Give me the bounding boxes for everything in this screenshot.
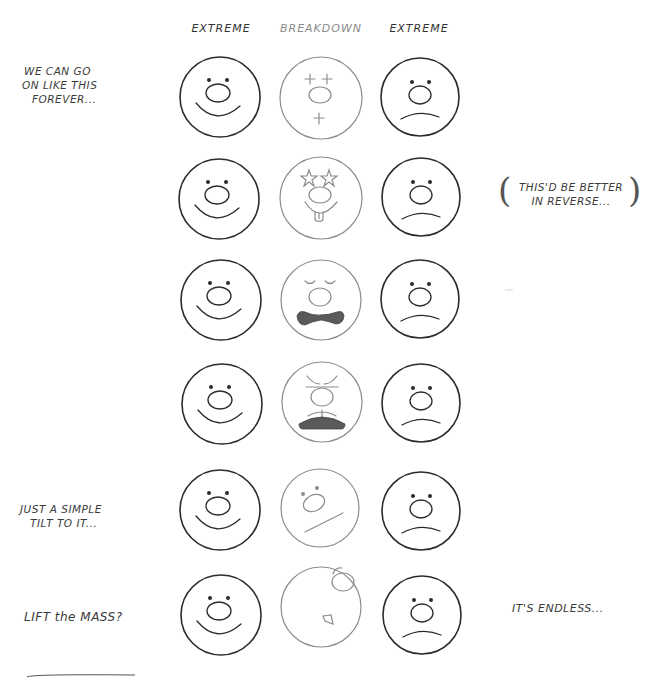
smudge-mark [505, 289, 513, 291]
face-sad [382, 158, 460, 236]
row-6 [181, 567, 461, 655]
face-sad [381, 260, 459, 338]
face-breakdown-tilted [281, 469, 359, 547]
face-sad [383, 576, 461, 654]
face-breakdown-star-eyes [280, 157, 362, 239]
bottom-rule-line [27, 675, 135, 677]
row-4 [182, 362, 460, 444]
row-2 [179, 157, 460, 239]
face-happy [180, 57, 260, 137]
face-sad [381, 58, 459, 136]
face-happy [181, 260, 261, 340]
sketch-sheet: .dk { fill: none; stroke: #2b2b2b; strok… [0, 0, 651, 679]
face-breakdown-closed-eyes [281, 260, 361, 340]
row-5 [180, 469, 460, 550]
face-breakdown-turned-away [281, 567, 361, 647]
face-happy [182, 364, 262, 444]
face-happy [181, 575, 261, 655]
face-sad [382, 364, 460, 442]
face-breakdown-open-mouth [282, 362, 362, 442]
row-1 [180, 57, 459, 139]
row-3 [181, 260, 459, 340]
face-breakdown-crosses [280, 57, 362, 139]
face-happy [180, 470, 260, 550]
face-happy [179, 159, 259, 239]
face-sad [382, 472, 460, 550]
